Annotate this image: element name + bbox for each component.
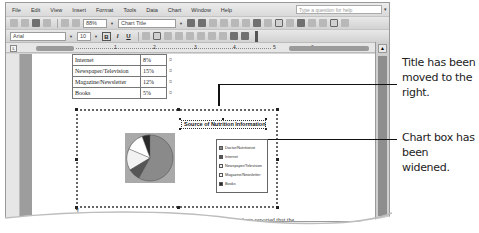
ruler-number: 2 xyxy=(153,44,156,50)
scroll-up-arrow-icon[interactable]: ▲ xyxy=(378,44,387,53)
percent-style-icon[interactable] xyxy=(186,32,194,40)
table-cell-source[interactable]: Newspaper/Television xyxy=(73,66,141,77)
word-window: File Edit View Insert Format Tools Data … xyxy=(5,2,390,222)
ruler-number: 1 xyxy=(114,44,117,50)
underline-button[interactable]: U xyxy=(124,32,133,41)
menu-bar: File Edit View Insert Format Tools Data … xyxy=(6,3,389,16)
chart-title[interactable]: Source of Nutrition Information xyxy=(181,120,266,129)
legend-swatch xyxy=(219,164,223,168)
resize-handle[interactable] xyxy=(75,108,78,111)
legend-label: Books xyxy=(225,182,236,186)
chart-objects-combo[interactable]: Chart Title xyxy=(118,19,176,28)
legend-swatch xyxy=(219,155,223,159)
callout-line: moved to the xyxy=(402,70,475,85)
resize-handle[interactable] xyxy=(177,108,180,111)
table-cell-percent[interactable]: 8% xyxy=(141,55,167,66)
print-icon[interactable] xyxy=(61,19,69,27)
decrease-decimal-icon[interactable] xyxy=(219,32,227,40)
angle-text-upward-icon[interactable] xyxy=(241,32,249,40)
menu-data[interactable]: Data xyxy=(146,7,158,13)
new-document-icon[interactable] xyxy=(10,19,18,27)
ruler-ticks xyxy=(76,48,271,49)
align-left-icon[interactable] xyxy=(142,32,150,40)
font-size-combo[interactable]: 10 xyxy=(77,32,91,41)
increase-decimal-icon[interactable] xyxy=(208,32,216,40)
table-cell-source[interactable]: Internet xyxy=(73,55,141,66)
legend-icon[interactable] xyxy=(209,19,217,27)
table-cell-percent[interactable]: 15% xyxy=(141,66,167,77)
comma-style-icon[interactable] xyxy=(197,32,205,40)
chart-view-icon[interactable] xyxy=(275,19,283,27)
callout-line-title-vertical xyxy=(218,84,220,106)
help-search-input[interactable]: Type a question for help xyxy=(296,5,382,14)
print-preview-icon[interactable] xyxy=(72,19,80,27)
currency-style-icon[interactable] xyxy=(175,32,183,40)
legend-label: Internet xyxy=(225,155,238,159)
table-cell-source[interactable]: Magazine/Newsletter xyxy=(73,77,141,88)
format-chart-title-icon[interactable] xyxy=(187,19,195,27)
menu-chart[interactable]: Chart xyxy=(168,7,181,13)
menu-file[interactable]: File xyxy=(12,7,21,13)
title-handle[interactable] xyxy=(265,118,267,120)
menu-view[interactable]: View xyxy=(50,7,62,13)
table-cell-percent[interactable]: 12% xyxy=(141,77,167,88)
font-name-combo[interactable]: Arial xyxy=(10,32,66,41)
left-margin-shade xyxy=(36,46,74,51)
font-size-dropdown-arrow-icon[interactable]: ▼ xyxy=(93,32,99,41)
vertical-gridlines-icon[interactable] xyxy=(308,19,316,27)
help-icon[interactable] xyxy=(341,19,349,27)
permission-icon[interactable] xyxy=(43,19,51,27)
resize-handle[interactable] xyxy=(276,158,279,161)
help-dropdown-arrow-icon[interactable]: ▾ xyxy=(384,6,387,12)
view-datasheet-icon[interactable] xyxy=(264,19,272,27)
align-right-icon[interactable] xyxy=(164,32,172,40)
menu-help[interactable]: Help xyxy=(221,7,232,13)
legend-label: Magazine/Newsletter xyxy=(225,173,260,177)
callout-line: been widened. xyxy=(402,145,479,175)
bold-button[interactable]: B xyxy=(102,32,111,41)
table-row: Internet 8% ¤ xyxy=(73,55,175,66)
embedded-chart-object[interactable]: Source of Nutrition Information xyxy=(76,109,278,208)
end-of-row-marker: ¤ xyxy=(167,77,175,88)
category-axis-icon[interactable] xyxy=(286,19,294,27)
by-column-icon[interactable] xyxy=(242,19,250,27)
resize-handle[interactable] xyxy=(276,108,279,111)
legend-label: Newspaper/Television xyxy=(225,164,262,168)
scrollbar-thumb[interactable] xyxy=(378,56,387,216)
chart-type-icon[interactable] xyxy=(198,19,206,27)
zoom-combo[interactable]: 88% xyxy=(83,19,107,28)
menu-format[interactable]: Format xyxy=(96,7,113,13)
menu-window[interactable]: Window xyxy=(191,7,211,13)
zoom-dropdown-arrow-icon[interactable]: ▼ xyxy=(109,19,115,28)
align-center-icon[interactable] xyxy=(153,32,161,40)
chart-objects-dropdown-arrow-icon[interactable]: ▼ xyxy=(178,19,184,28)
title-handle[interactable] xyxy=(222,118,224,120)
menu-edit[interactable]: Edit xyxy=(31,7,40,13)
data-table-icon[interactable] xyxy=(220,19,228,27)
fill-color-icon[interactable] xyxy=(297,19,305,27)
vertical-scrollbar[interactable]: ▲ xyxy=(375,42,389,222)
font-name-dropdown-arrow-icon[interactable]: ▼ xyxy=(68,32,74,41)
menu-insert[interactable]: Insert xyxy=(72,7,86,13)
chart-legend[interactable]: Doctor/Nutritionist Internet Newspaper/T… xyxy=(216,139,268,193)
horizontal-gridlines-icon[interactable] xyxy=(319,19,327,27)
title-handle[interactable] xyxy=(265,128,267,130)
save-icon[interactable] xyxy=(32,19,40,27)
right-margin-shade xyxy=(289,46,369,51)
title-handle[interactable] xyxy=(179,118,181,120)
legend-item: Internet xyxy=(219,152,265,161)
pie-plot-area[interactable] xyxy=(125,133,175,183)
horizontal-ruler[interactable]: L 1 2 3 4 5 6 xyxy=(6,42,389,53)
resize-handle[interactable] xyxy=(75,158,78,161)
by-row-icon[interactable] xyxy=(231,19,239,27)
open-icon[interactable] xyxy=(21,19,29,27)
undo-icon[interactable] xyxy=(253,19,261,27)
table-cell-percent[interactable]: 5% xyxy=(141,88,167,99)
menu-tools[interactable]: Tools xyxy=(123,7,136,13)
title-handle[interactable] xyxy=(179,128,181,130)
angle-text-downward-icon[interactable] xyxy=(230,32,238,40)
table-cell-source[interactable]: Books xyxy=(73,88,141,99)
drawing-icon[interactable] xyxy=(330,19,338,27)
tab-selector-icon[interactable]: L xyxy=(10,45,17,52)
italic-button[interactable]: I xyxy=(113,32,122,41)
